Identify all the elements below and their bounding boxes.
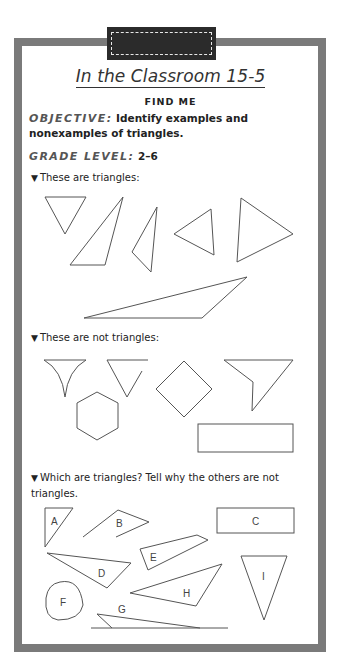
shapes-illustration: A B C D E F G H I (0, 0, 341, 669)
nonexample-hexagon (77, 392, 118, 440)
example-triangle-3 (132, 207, 157, 272)
question-shape-i (241, 556, 287, 620)
example-triangle-1 (45, 197, 86, 234)
nonexample-open-triangle (107, 360, 148, 397)
example-triangle-2 (70, 197, 123, 265)
nonexample-curved-triangle (44, 360, 86, 397)
example-triangle-6 (84, 277, 247, 318)
question-shape-a (45, 508, 73, 547)
shape-label-a: A (51, 516, 58, 527)
shape-label-h: H (183, 588, 190, 599)
shape-label-i: I (262, 571, 265, 582)
shape-label-d: D (98, 568, 105, 579)
question-shape-g-wedge (97, 614, 200, 628)
shape-label-b: B (116, 518, 123, 529)
shape-label-f: F (60, 597, 66, 608)
shape-label-g: G (118, 604, 126, 615)
question-shape-h (130, 564, 222, 606)
nonexample-concave-shape (224, 360, 293, 411)
example-triangle-5 (237, 198, 293, 262)
shape-label-c: C (252, 516, 259, 527)
shape-label-e: E (150, 552, 157, 563)
question-shape-d (47, 553, 131, 588)
nonexample-rectangle (198, 424, 293, 452)
nonexample-square (156, 361, 212, 417)
example-triangle-4 (174, 209, 214, 255)
